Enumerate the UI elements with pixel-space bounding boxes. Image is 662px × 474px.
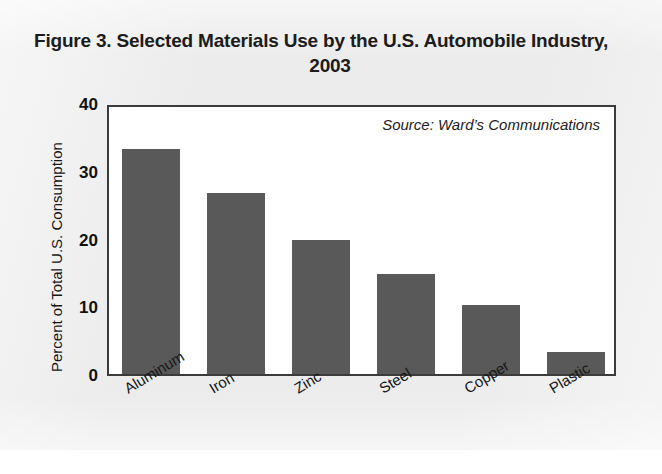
y-axis-tick-label: 40: [58, 95, 98, 115]
y-axis-tick-label: 30: [58, 163, 98, 183]
figure-page: Figure 3. Selected Materials Use by the …: [0, 0, 662, 450]
y-axis-tick-label: 20: [58, 231, 98, 251]
y-axis-tick-label: 10: [58, 298, 98, 318]
page-bottom-margin: [0, 450, 662, 474]
y-axis-tick-label: 0: [58, 366, 98, 386]
plot-area: Source: Ward’s Communications: [107, 105, 616, 376]
source-annotation: Source: Ward’s Communications: [382, 116, 600, 133]
bar: [207, 193, 265, 374]
bar: [292, 240, 350, 374]
page-title: Figure 3. Selected Materials Use by the …: [35, 28, 625, 78]
y-axis-title: Percent of Total U.S. Consumption: [48, 72, 65, 372]
bar: [122, 149, 180, 374]
bar: [377, 274, 435, 374]
